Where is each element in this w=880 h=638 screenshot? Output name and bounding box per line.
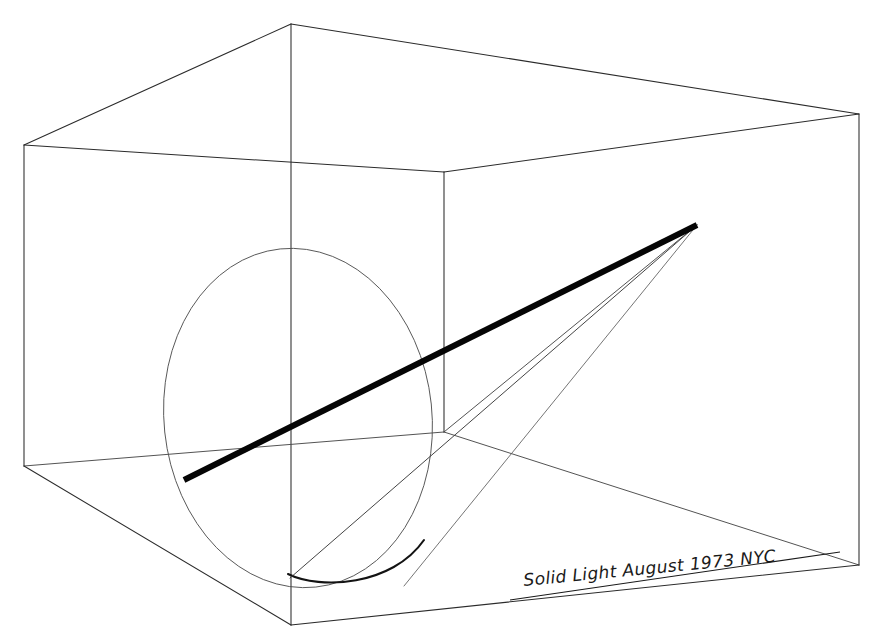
solid-light-beam-group	[184, 225, 697, 480]
solid-light-drawing: Solid Light August 1973 NYC	[0, 0, 880, 638]
floor-back-right-line	[444, 432, 859, 565]
room-floor-group	[24, 432, 859, 625]
artwork-canvas: Solid Light August 1973 NYC	[0, 0, 880, 638]
room-corners-group	[24, 24, 859, 625]
ceiling-right-edge-line	[291, 24, 859, 114]
light-cone-ellipse	[147, 235, 449, 601]
ceiling-left-edge-line	[24, 24, 291, 145]
light-cone-ellipse-group	[147, 235, 449, 601]
ceiling-back-left-line	[24, 145, 444, 172]
ellipse-floor-contact-arc	[288, 540, 424, 583]
signature-group: Solid Light August 1973 NYC	[510, 546, 840, 600]
cone-edge-lower-left-line	[290, 225, 697, 578]
room-ceiling-group	[24, 24, 859, 172]
ceiling-back-right-line	[444, 114, 859, 172]
signature-inscription: Solid Light August 1973 NYC	[522, 546, 776, 590]
wall-baseline-to-apex-line	[444, 225, 697, 432]
light-cone-edges-group	[290, 225, 697, 586]
floor-front-left-line	[24, 466, 291, 625]
wall-baseline-group	[444, 225, 697, 432]
solid-light-beam-line	[184, 225, 697, 480]
cone-edge-lower-right-line	[404, 225, 697, 586]
floor-back-left-line	[24, 432, 444, 466]
